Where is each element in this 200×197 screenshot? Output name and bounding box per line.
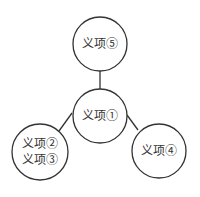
node-label-yixiang-4: 义项④ [141, 143, 177, 159]
edge-center-to-right [127, 115, 138, 130]
node-label-yixiang-2: 义项② [22, 136, 58, 152]
node-label-yixiang-5: 义项⑤ [82, 36, 118, 52]
node-label-yixiang-3: 义项③ [22, 152, 58, 168]
node-label-yixiang-1: 义项① [82, 108, 118, 124]
node-label-yixiang-2-3: 义项② 义项③ [22, 136, 58, 168]
edge-center-to-left [59, 113, 72, 131]
